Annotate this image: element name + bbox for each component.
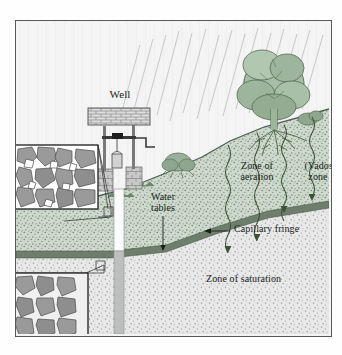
label-water-tables-line1: Water	[151, 191, 175, 202]
label-well: Well	[94, 89, 146, 101]
label-vadose-zone: (Vadose zone )	[292, 161, 332, 182]
well-shaft-dry	[114, 189, 124, 251]
well-pier-right	[126, 167, 142, 189]
well-bucket	[112, 154, 122, 168]
label-zone-of-saturation: Zone of saturation	[206, 274, 314, 285]
well-post-right	[132, 124, 135, 169]
label-zone-of-aeration-line2: aeration	[240, 171, 273, 182]
well-winch-drum	[112, 133, 123, 139]
label-zone-of-aeration-line1: Zone of	[241, 160, 273, 171]
diagram-frame: Well Zone of aeration (Vadose zone ) Wat…	[15, 20, 332, 337]
label-capillary-fringe: Capillary fringe	[234, 224, 330, 235]
label-vadose-zone-line1: (Vadose	[305, 160, 332, 171]
figure-canvas: Well Zone of aeration (Vadose zone ) Wat…	[0, 0, 342, 355]
label-vadose-zone-line2: zone )	[308, 171, 332, 182]
label-water-tables: Water tables	[138, 192, 188, 213]
saturated-inset-grains	[16, 276, 76, 334]
label-water-tables-line2: tables	[151, 202, 175, 213]
label-zone-of-aeration: Zone of aeration	[226, 161, 288, 182]
well-post-left	[103, 126, 106, 171]
well-shaft-water	[114, 251, 124, 334]
well-roof	[88, 108, 150, 125]
